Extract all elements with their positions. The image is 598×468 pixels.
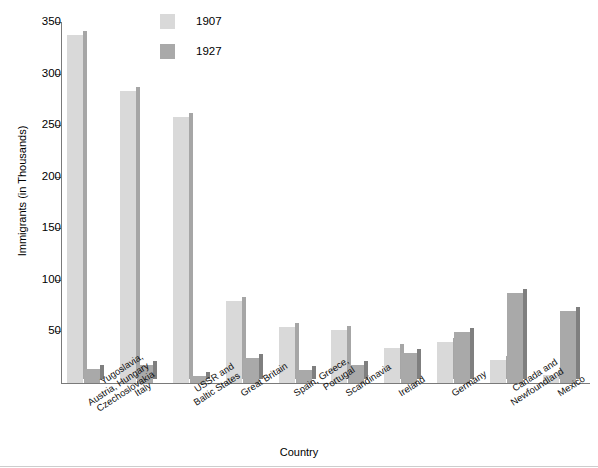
y-tick-label: 150: [15, 221, 61, 233]
y-tick-label: 300: [15, 67, 61, 79]
bar-top: [242, 297, 246, 301]
bar-top: [189, 113, 193, 117]
bar-face: [173, 117, 189, 383]
bar-top: [295, 323, 299, 327]
bar-1907-7: [437, 342, 453, 383]
bar-1907-0: [67, 35, 83, 383]
y-tick-label: 200: [15, 170, 61, 182]
bar-side: [83, 31, 87, 379]
bar-top: [523, 289, 527, 293]
bar-face: [454, 332, 470, 383]
bar-face: [507, 293, 523, 383]
bar-top: [417, 349, 421, 353]
bottom-divider: [0, 466, 598, 467]
bar-top: [100, 365, 104, 369]
bar-side: [470, 328, 474, 379]
bar-chart: Immigrants (in Thousands) 50100150200250…: [0, 0, 598, 468]
legend-label: 1907: [196, 15, 222, 27]
bar-1907-2: [173, 117, 189, 383]
bar-top: [364, 361, 368, 365]
bar-top: [576, 307, 580, 311]
y-tick-label: 100: [15, 273, 61, 285]
y-tick-label: 350: [15, 15, 61, 27]
bar-side: [523, 289, 527, 379]
bar-top: [400, 344, 404, 348]
legend-swatch: [160, 44, 175, 59]
bar-top: [259, 354, 263, 358]
bar-top: [136, 87, 140, 91]
bar-1927-8: [507, 293, 523, 383]
x-axis-label: Country: [0, 446, 598, 458]
bar-1907-1: [120, 91, 136, 383]
bar-top: [153, 361, 157, 365]
bar-side: [189, 113, 193, 379]
bar-top: [83, 31, 87, 35]
plot-area: [61, 22, 589, 383]
bar-top: [312, 366, 316, 370]
y-axis-label: Immigrants (in Thousands): [16, 111, 28, 271]
bar-face: [437, 342, 453, 383]
y-tick-label: 50: [15, 324, 61, 336]
bar-1927-7: [454, 332, 470, 383]
bar-top: [470, 328, 474, 332]
bar-face: [120, 91, 136, 383]
legend-label: 1927: [196, 45, 222, 57]
bar-side: [576, 307, 580, 379]
bar-face: [67, 35, 83, 383]
bar-side: [136, 87, 140, 379]
legend-swatch: [160, 14, 175, 29]
bar-1907-8: [490, 360, 506, 383]
bar-top: [347, 326, 351, 330]
bar-face: [490, 360, 506, 383]
y-tick-label: 250: [15, 118, 61, 130]
